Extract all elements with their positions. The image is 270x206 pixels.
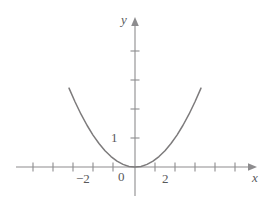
graph-figure: y x 0 −2 2 1 — [0, 0, 270, 206]
origin-tick-label: 0 — [118, 170, 125, 183]
x-tick-label-negative-two: −2 — [76, 172, 90, 185]
parabola-plot — [0, 0, 270, 206]
y-axis-label: y — [121, 13, 127, 26]
y-axis-arrow-icon — [131, 17, 139, 26]
x-axis-label: x — [252, 171, 258, 184]
x-tick-label-two: 2 — [162, 172, 169, 185]
y-tick-label-one: 1 — [111, 131, 118, 144]
